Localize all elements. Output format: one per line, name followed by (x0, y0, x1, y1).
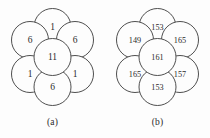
circle-label-lower-left: 1 (28, 69, 33, 79)
cluster-svg-a: 1 6 6 11 1 1 6 (0, 0, 105, 114)
figure-b: 153 149 165 161 165 157 153 (b) (105, 0, 210, 138)
circle-label-lower-right: 157 (174, 70, 186, 79)
circle-label-top: 1 (50, 22, 55, 32)
figure-caption-b: (b) (105, 114, 210, 130)
figure-a: 1 6 6 11 1 1 6 (a) (0, 0, 105, 138)
figure-caption-a: (a) (0, 114, 105, 130)
circle-label-bottom: 153 (151, 83, 163, 92)
figure-page: 1 6 6 11 1 1 6 (a) 153 149 16 (0, 0, 210, 138)
circle-label-center: 161 (151, 53, 163, 62)
cluster-svg-b: 153 149 165 161 165 157 153 (105, 0, 210, 114)
circle-label-lower-right: 1 (73, 69, 78, 79)
circle-label-center: 11 (48, 52, 57, 62)
circle-cluster-b: 153 149 165 161 165 157 153 (105, 0, 210, 114)
circle-label-bottom: 6 (50, 82, 55, 92)
circle-cluster-a: 1 6 6 11 1 1 6 (0, 0, 105, 114)
circle-label-upper-right: 165 (174, 36, 186, 45)
circle-label-upper-left: 149 (129, 36, 141, 45)
circle-label-top: 153 (151, 23, 163, 32)
circle-label-lower-left: 165 (129, 70, 141, 79)
circle-label-upper-right: 6 (73, 35, 78, 45)
circle-label-upper-left: 6 (28, 35, 33, 45)
